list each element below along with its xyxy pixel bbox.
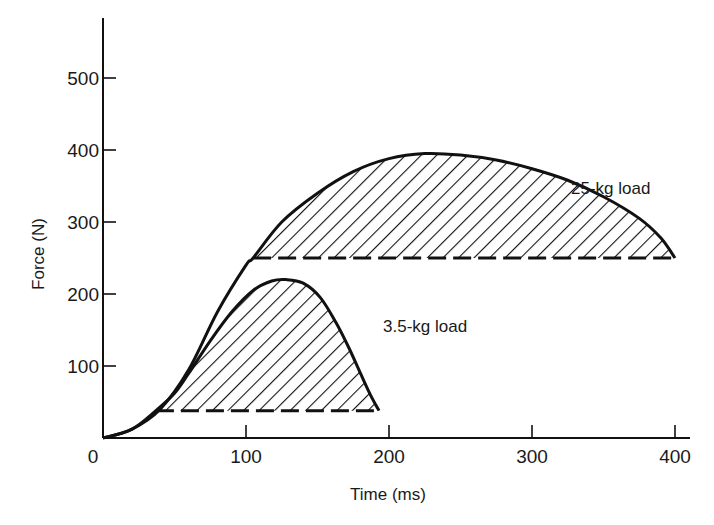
y-tick-label: 500 xyxy=(67,68,99,89)
x-axis-title: Time (ms) xyxy=(350,485,426,504)
force-time-chart: 100200300400500 100200300400 0 Time (ms)… xyxy=(0,0,714,525)
y-ticks: 100200300400500 xyxy=(67,68,116,377)
annotation-25kg: 25-kg load xyxy=(571,179,650,198)
x-tick-label: 100 xyxy=(230,446,262,467)
x-tick-label: 400 xyxy=(659,446,691,467)
y-tick-label: 300 xyxy=(67,212,99,233)
y-axis-title: Force (N) xyxy=(29,218,48,290)
annotation-3-5kg: 3.5-kg load xyxy=(383,317,467,336)
origin-label: 0 xyxy=(88,446,99,467)
x-tick-label: 200 xyxy=(373,446,405,467)
series-3-5kg xyxy=(103,279,379,438)
x-tick-label: 300 xyxy=(516,446,548,467)
x-ticks: 100200300400 xyxy=(230,425,691,467)
y-tick-label: 200 xyxy=(67,284,99,305)
hatched-area xyxy=(253,153,675,258)
y-tick-label: 100 xyxy=(67,356,99,377)
y-tick-label: 400 xyxy=(67,140,99,161)
hatched-area xyxy=(156,279,379,410)
